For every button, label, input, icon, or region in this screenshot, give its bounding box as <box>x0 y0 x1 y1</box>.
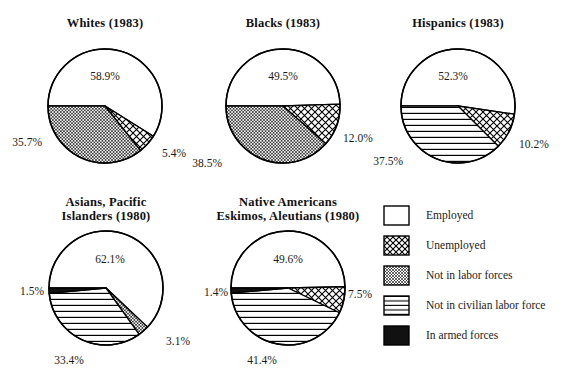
chart-title-hispanics: Hispanics (1983) <box>412 16 504 30</box>
legend-swatch-employed <box>384 206 409 225</box>
slice-label-asians-unemployed: 3.1% <box>166 335 190 347</box>
slice-label-native-americans-in-armed-forces: 1.4% <box>204 286 228 298</box>
slice-label-asians-employed: 62.1% <box>95 253 125 265</box>
legend: EmployedUnemployedNot in labor forcesNot… <box>384 206 545 345</box>
legend-label-not-in-civilian-labor-force: Not in civilian labor force <box>426 299 545 311</box>
slice-label-hispanics-unemployed: 10.2% <box>519 138 549 150</box>
legend-label-employed: Employed <box>426 209 474 222</box>
legend-swatch-not-in-civilian-labor-force <box>384 296 409 315</box>
slice-label-asians-in-armed-forces: 1.5% <box>20 285 44 297</box>
chart-title-asians-line2: Islanders (1980) <box>62 209 151 223</box>
legend-swatch-in-armed-forces <box>384 326 409 345</box>
slice-label-native-americans-unemployed: 7.5% <box>348 288 372 300</box>
pie-chart-hispanics: Hispanics (1983) 52.3% 10.2% 37.5% <box>373 16 549 167</box>
slice-label-whites-employed: 58.9% <box>90 70 120 82</box>
chart-title-native-americans-line2: Eskimos, Aleutians (1980) <box>217 209 360 223</box>
legend-swatch-unemployed <box>384 236 409 255</box>
chart-title-asians-line1: Asians, Pacific <box>66 195 147 209</box>
legend-swatch-not-in-labor-forces <box>384 266 409 285</box>
legend-label-not-in-labor-forces: Not in labor forces <box>426 269 513 281</box>
slice-label-hispanics-not-in-civilian-labor-force: 37.5% <box>373 155 403 167</box>
slice-label-hispanics-employed: 52.3% <box>438 70 468 82</box>
pie-chart-blacks: Blacks (1983) 49.5% 12.0% 38.5% <box>192 16 373 169</box>
slice-label-blacks-employed: 49.5% <box>268 70 298 82</box>
pie-chart-figure: Whites (1983) 58.9% 5.4% 35.7% Blacks (1… <box>0 0 563 383</box>
pie-chart-whites: Whites (1983) 58.9% 5.4% 35.7% <box>12 16 186 163</box>
slice-label-blacks-not-in-labor-forces: 38.5% <box>192 157 222 169</box>
legend-label-in-armed-forces: In armed forces <box>426 329 499 341</box>
slice-label-whites-unemployed: 5.4% <box>162 147 186 159</box>
chart-title-whites: Whites (1983) <box>67 16 144 30</box>
pie-chart-native-americans: Native Americans Eskimos, Aleutians (198… <box>204 195 372 366</box>
chart-title-blacks: Blacks (1983) <box>246 16 320 30</box>
slice-label-native-americans-not-in-civilian-labor-force: 41.4% <box>247 354 277 366</box>
legend-label-unemployed: Unemployed <box>426 239 486 252</box>
chart-title-native-americans-line1: Native Americans <box>239 195 337 209</box>
slice-label-asians-not-in-civilian-labor-force: 33.4% <box>54 354 84 366</box>
slice-label-native-americans-employed: 49.6% <box>273 253 303 265</box>
slice-label-whites-not-in-labor-forces: 35.7% <box>12 136 42 148</box>
pie-chart-asians-pacific-islanders: Asians, Pacific Islanders (1980) 62.1% 3… <box>20 195 190 366</box>
slice-label-blacks-unemployed: 12.0% <box>343 132 373 144</box>
